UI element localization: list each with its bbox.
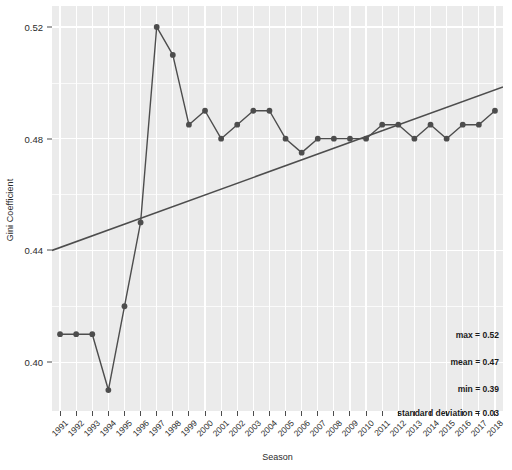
data-point xyxy=(347,136,353,142)
x-tick-mark xyxy=(205,411,206,416)
stat-annotation: max = 0.52 xyxy=(456,330,499,340)
data-point xyxy=(202,108,208,114)
data-point xyxy=(428,122,434,128)
data-point xyxy=(299,150,305,156)
x-tick-mark xyxy=(382,411,383,416)
data-layer xyxy=(52,6,503,411)
x-tick-mark xyxy=(140,411,141,416)
data-point xyxy=(186,122,192,128)
x-tick-mark xyxy=(301,411,302,416)
stat-annotation: mean = 0.47 xyxy=(451,357,499,367)
data-point xyxy=(105,387,111,393)
y-tick-label: 0.48 xyxy=(3,133,43,144)
x-tick-mark xyxy=(108,411,109,416)
x-tick-mark xyxy=(317,411,318,416)
y-tick-label: 0.40 xyxy=(3,357,43,368)
data-point xyxy=(363,136,369,142)
x-tick-mark xyxy=(333,411,334,416)
y-tick-label: 0.52 xyxy=(3,21,43,32)
x-tick-mark xyxy=(124,411,125,416)
y-tick-label: 0.44 xyxy=(3,245,43,256)
x-tick-mark xyxy=(349,411,350,416)
data-point xyxy=(89,331,95,337)
data-point xyxy=(395,122,401,128)
data-point xyxy=(283,136,289,142)
x-tick-mark xyxy=(285,411,286,416)
data-point xyxy=(444,136,450,142)
stat-annotation: standard deviation = 0.03 xyxy=(397,408,499,418)
x-tick-mark xyxy=(92,411,93,416)
x-tick-mark xyxy=(237,411,238,416)
x-tick-mark xyxy=(188,411,189,416)
x-tick-mark xyxy=(366,411,367,416)
x-tick-mark xyxy=(253,411,254,416)
data-point xyxy=(234,122,240,128)
data-point xyxy=(250,108,256,114)
data-point xyxy=(476,122,482,128)
data-point xyxy=(379,122,385,128)
data-point xyxy=(315,136,321,142)
data-point xyxy=(138,220,144,226)
data-point xyxy=(218,136,224,142)
x-tick-mark xyxy=(76,411,77,416)
series-line xyxy=(60,27,495,390)
x-tick-mark xyxy=(269,411,270,416)
x-axis-title-label: Season xyxy=(262,452,293,462)
trend-line xyxy=(52,87,503,250)
x-tick-mark xyxy=(60,411,61,416)
data-point xyxy=(122,303,128,309)
data-point xyxy=(267,108,273,114)
gini-coefficient-line-chart: Gini Coefficient 0.400.440.480.52 199119… xyxy=(0,0,512,470)
data-point xyxy=(331,136,337,142)
data-point xyxy=(57,331,63,337)
x-tick-mark xyxy=(156,411,157,416)
data-point xyxy=(492,108,498,114)
data-point xyxy=(154,24,160,30)
stat-annotation: min = 0.39 xyxy=(458,384,499,394)
data-point xyxy=(170,52,176,58)
data-point xyxy=(460,122,466,128)
data-point xyxy=(73,331,79,337)
x-tick-mark xyxy=(172,411,173,416)
data-point xyxy=(412,136,418,142)
x-tick-mark xyxy=(221,411,222,416)
x-axis-title: Season xyxy=(52,452,503,462)
plot-panel xyxy=(52,6,503,411)
y-axis: 0.400.440.480.52 xyxy=(0,0,52,420)
